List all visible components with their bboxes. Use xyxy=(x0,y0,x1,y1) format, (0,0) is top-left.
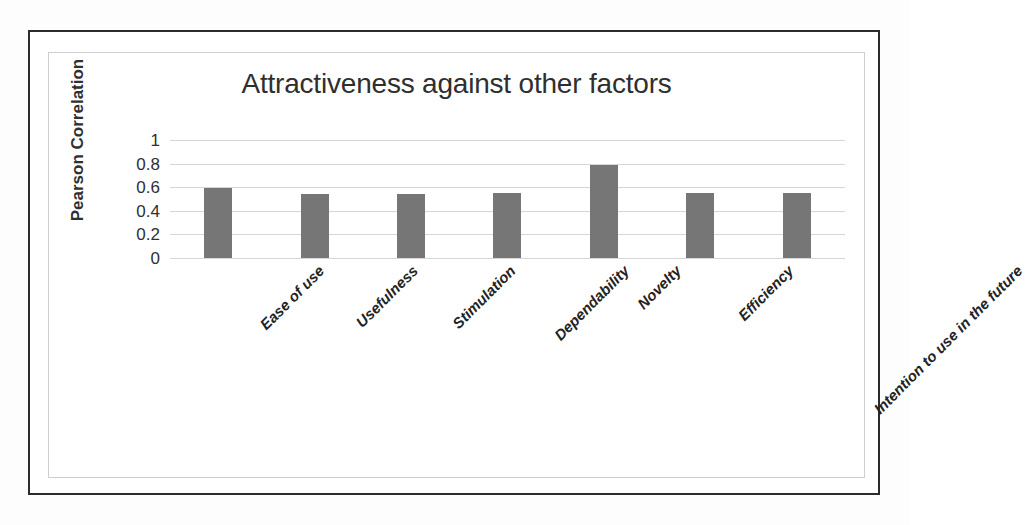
y-axis-title: Pearson Correlation xyxy=(68,40,88,240)
bar xyxy=(686,193,714,258)
bar xyxy=(590,165,618,258)
bar-slot xyxy=(266,140,362,258)
bar xyxy=(397,194,425,258)
bar xyxy=(493,193,521,258)
y-axis-tick-label: 0.8 xyxy=(100,156,160,173)
y-axis-tick-label: 1 xyxy=(100,132,160,149)
x-axis-category-labels: Ease of useUsefulnessStimulationDependab… xyxy=(170,262,845,462)
bar xyxy=(301,194,329,258)
bar-slot xyxy=(459,140,555,258)
chart-title: Attractiveness against other factors xyxy=(48,68,865,100)
bar xyxy=(783,193,811,258)
x-axis-category-label: Dependability xyxy=(550,262,632,344)
bar-slot xyxy=(170,140,266,258)
plot-area xyxy=(170,140,845,258)
x-axis-category-label: Intention to use in the future xyxy=(870,262,1025,417)
x-axis-category-label: Ease of use xyxy=(257,262,328,333)
y-axis-tick-label: 0 xyxy=(100,250,160,267)
bar-slot xyxy=(363,140,459,258)
bar-series xyxy=(170,140,845,258)
y-axis-tick-label: 0.2 xyxy=(100,226,160,243)
gridline xyxy=(170,258,845,259)
x-axis-category-label: Stimulation xyxy=(449,262,519,332)
y-axis-tick-label: 0.6 xyxy=(100,179,160,196)
y-axis-tick-label: 0.4 xyxy=(100,203,160,220)
bar-slot xyxy=(652,140,748,258)
x-axis-category-label: Novelty xyxy=(634,262,684,312)
bar-slot xyxy=(749,140,845,258)
bar-slot xyxy=(556,140,652,258)
bar xyxy=(204,188,232,258)
y-axis-tick-labels: 10.80.60.40.20 xyxy=(98,140,160,258)
x-axis-category-label: Efficiency xyxy=(735,262,797,324)
x-axis-category-label: Usefulness xyxy=(352,262,421,331)
